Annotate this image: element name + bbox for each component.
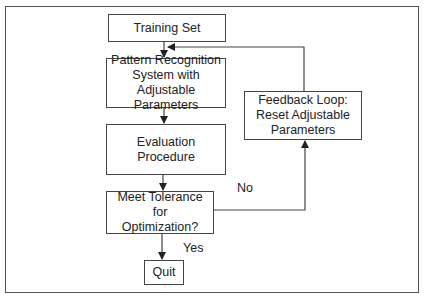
training-set-node: Training Set [108,14,226,42]
pattern-recognition-node: Pattern Recognition System with Adjustab… [106,58,226,108]
arrow-decision-to-feedback [214,141,305,210]
evaluation-procedure-node: Evaluation Procedure [106,124,226,175]
quit-node: Quit [144,260,184,285]
evaluation-procedure-label: Evaluation Procedure [107,135,225,165]
training-set-label: Training Set [134,21,201,36]
feedback-loop-label: Feedback Loop: Reset Adjustable Paramete… [249,93,357,138]
yes-edge-label: Yes [183,241,203,255]
pattern-recognition-label: Pattern Recognition System with Adjustab… [109,53,223,113]
quit-label: Quit [153,265,176,280]
decision-node: Meet Tolerance for Optimization? [106,191,214,234]
feedback-loop-node: Feedback Loop: Reset Adjustable Paramete… [244,91,362,140]
decision-label: Meet Tolerance for Optimization? [113,190,207,235]
no-edge-label: No [237,181,253,195]
